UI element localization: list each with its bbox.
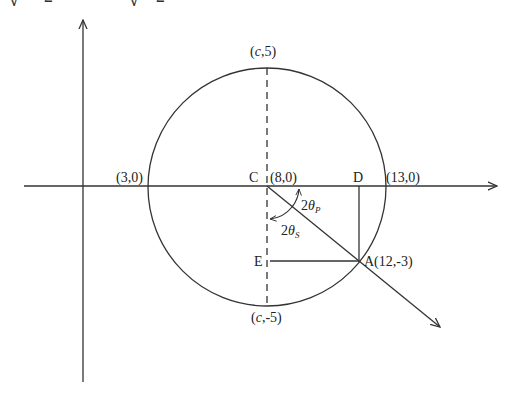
label-point-e: E [254, 254, 263, 269]
label-2theta-p: 2θP [301, 198, 321, 215]
label-bottom-point: (c,-5) [251, 310, 282, 326]
label-center-coord: (8,0) [270, 170, 297, 186]
label-2theta-s: 2θS [281, 223, 300, 240]
angle-arc-2theta-s [270, 207, 292, 219]
label-center-c: C [249, 170, 258, 185]
mohr-circle-diagram: (c,5) (c,-5) (3,0) C (8,0) D (13,0) E A(… [0, 0, 519, 399]
label-left-intercept: (3,0) [116, 170, 143, 186]
label-right-intercept: (13,0) [386, 170, 420, 186]
mohr-circle [148, 68, 386, 306]
label-point-d: D [353, 170, 363, 185]
angle-arc-2theta-p [292, 189, 299, 207]
label-top-point: (c,5) [250, 44, 276, 60]
principal-direction-line [267, 186, 440, 327]
label-point-a: A(12,-3) [364, 254, 413, 270]
